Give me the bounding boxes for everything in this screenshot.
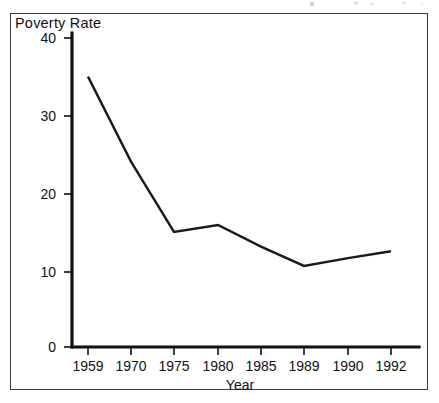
y-tick-label-30: 30	[20, 108, 56, 124]
x-tick-label-1990: 1990	[332, 358, 363, 374]
x-tick-label-1959: 1959	[72, 358, 103, 374]
x-tick-label-1992: 1992	[375, 358, 406, 374]
x-tick-label-1989: 1989	[288, 358, 319, 374]
poverty-rate-series-line	[88, 77, 391, 266]
x-tick-label-1985: 1985	[245, 358, 276, 374]
chart-plot-area	[0, 0, 439, 403]
poverty-rate-figure: Poverty Rate 40 30 20 10	[0, 0, 439, 403]
y-tick-label-0: 0	[20, 339, 56, 355]
y-tick-label-20: 20	[20, 186, 56, 202]
y-tick-label-10: 10	[20, 264, 56, 280]
x-tick-label-1975: 1975	[158, 358, 189, 374]
x-tick-label-1970: 1970	[115, 358, 146, 374]
x-tick-label-1980: 1980	[202, 358, 233, 374]
x-axis-title: Year	[226, 377, 254, 393]
y-tick-label-40: 40	[20, 30, 56, 46]
